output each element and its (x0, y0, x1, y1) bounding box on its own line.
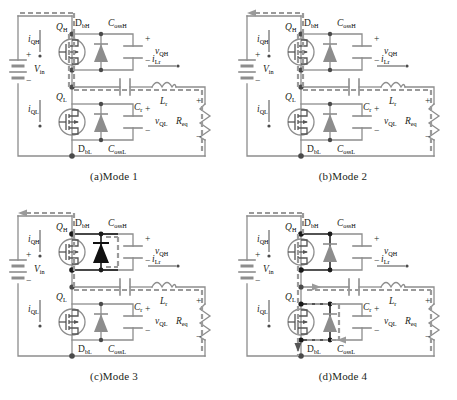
vin-plus: + (255, 50, 260, 60)
label-vin: Vin (34, 264, 45, 275)
req-plus: + (425, 96, 430, 106)
label-iql: iQL (257, 104, 268, 115)
label-lr: Lr (388, 296, 396, 307)
vql-minus: − (145, 126, 150, 136)
label-cossh: CossH (337, 218, 356, 229)
body-diode-low (94, 114, 108, 132)
vqh-plus: + (374, 34, 379, 44)
req-plus: + (196, 96, 201, 106)
label-req: Req (404, 116, 417, 127)
label-qh: QH (56, 222, 68, 233)
vqh-minus: − (374, 56, 379, 66)
caption-text: Mode 4 (332, 370, 367, 382)
vin-plus: + (255, 250, 260, 260)
vqh-minus: − (374, 256, 379, 266)
label-dbh: DbH (75, 218, 90, 229)
body-diode-low (323, 314, 337, 332)
circuit-panel-mode1: + − + − + − + − Vin QH QL iQH iQL DbH Db… (0, 0, 228, 200)
label-dbh: DbH (304, 18, 319, 29)
label-qh: QH (56, 22, 68, 33)
label-ql: QL (56, 292, 67, 303)
req-plus: + (425, 296, 430, 306)
label-req: Req (175, 116, 188, 127)
label-dbl: DbL (78, 144, 92, 155)
panel-caption: (a)Mode 1 (0, 170, 228, 182)
caption-index: (b) (319, 170, 332, 182)
body-diode-high (323, 44, 337, 62)
vin-minus: − (26, 276, 31, 286)
label-qh: QH (285, 222, 297, 233)
label-ql: QL (285, 92, 296, 103)
vql-minus: − (145, 326, 150, 336)
circuit-panel-mode4: + − + − + − + − Vin QH QL iQH iQL DbL Db… (229, 200, 457, 400)
label-vql: vQL (155, 116, 168, 127)
label-cr: Cr (363, 302, 371, 313)
vin-minus: − (255, 76, 260, 86)
label-dbl: DbL (307, 344, 321, 355)
label-cr: Cr (363, 102, 371, 113)
vin-plus: + (26, 250, 31, 260)
body-diode-high (94, 44, 108, 62)
panel-caption: (c)Mode 3 (0, 370, 228, 382)
label-vin: Vin (34, 64, 45, 75)
label-cossh: CossH (337, 18, 356, 29)
label-vqh: vQH (155, 46, 169, 57)
circuit-panel-mode2: + − + − + − + − Vin QH QL iQH iQL DbH Db… (229, 0, 457, 200)
figure-sheet: + − + − + − + − Vin QH QL iQH iQL DbH Db… (0, 0, 457, 400)
label-iql: iQL (28, 104, 39, 115)
label-qh: QH (285, 22, 297, 33)
body-diode-high (93, 243, 109, 263)
label-lr: Lr (159, 96, 167, 107)
caption-index: (c) (90, 370, 103, 382)
label-cossl: CossL (108, 344, 126, 355)
label-req: Req (404, 316, 417, 327)
label-cossl: CossL (337, 144, 355, 155)
caption-text: Mode 2 (332, 170, 367, 182)
vin-plus: + (26, 50, 31, 60)
label-vql: vQL (384, 316, 397, 327)
caption-index: (d) (319, 370, 332, 382)
label-dbl: DbL (78, 344, 92, 355)
vqh-minus: − (145, 56, 150, 66)
body-diode-high (323, 244, 337, 262)
vqh-plus: + (145, 34, 150, 44)
current-arrow-ilr (148, 64, 180, 67)
label-dbh: DbH (75, 18, 90, 29)
label-ql: QL (285, 292, 296, 303)
vql-plus: + (145, 104, 150, 114)
label-iqh: iQH (28, 34, 40, 45)
req-minus: − (425, 132, 430, 142)
vql-minus: − (374, 326, 379, 336)
req-minus: − (196, 132, 201, 142)
circuit-schematic: + − + − + − + − Vin QH QL iQH iQL DbL Db… (229, 200, 457, 372)
label-req: Req (175, 316, 188, 327)
label-iqh: iQH (257, 234, 269, 245)
label-iqh: iQH (28, 234, 40, 245)
label-iqh: iQH (257, 34, 269, 45)
panel-caption: (b)Mode 2 (229, 170, 457, 182)
panel-caption: (d)Mode 4 (229, 370, 457, 382)
label-iql: iQL (257, 304, 268, 315)
label-vql: vQL (384, 116, 397, 127)
body-diode-low (94, 314, 108, 332)
label-vqh: vQH (384, 246, 398, 257)
label-cr: Cr (134, 302, 142, 313)
vin-minus: − (26, 76, 31, 86)
caption-text: Mode 1 (103, 170, 138, 182)
req-minus: − (425, 332, 430, 342)
circuit-schematic: + − + − + − + − Vin QH QL iQH iQL DbH Db… (229, 0, 457, 172)
current-arrow-ilr (377, 264, 409, 267)
circuit-schematic: + − + − + − + − Vin QH QL iQH iQL DbH Db… (0, 0, 228, 172)
caption-index: (a) (90, 170, 103, 182)
vql-plus: + (374, 304, 379, 314)
vql-plus: + (374, 104, 379, 114)
vin-minus: − (255, 276, 260, 286)
label-lr: Lr (388, 96, 396, 107)
circuit-schematic: + − + − + − + − Vin QH QL iQH iQL DbH Db… (0, 200, 228, 372)
vqh-plus: + (374, 234, 379, 244)
vqh-minus: − (145, 256, 150, 266)
label-dbh: DbH (304, 218, 319, 229)
label-vqh: vQH (384, 46, 398, 57)
label-vin: Vin (263, 64, 274, 75)
caption-text: Mode 3 (103, 370, 138, 382)
